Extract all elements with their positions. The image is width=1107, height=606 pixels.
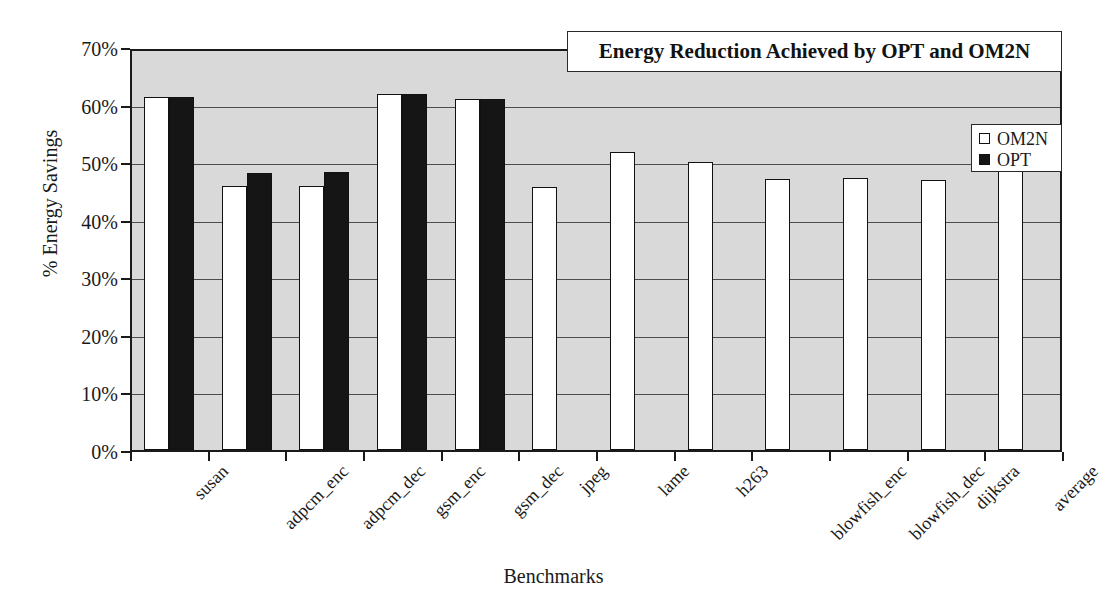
bar-opt-adpcm_enc	[247, 173, 272, 450]
y-axis-tick	[121, 48, 130, 50]
bar-om2n-susan	[144, 97, 169, 450]
bar-opt-gsm_enc	[402, 94, 427, 450]
bar-group	[144, 51, 194, 450]
bar-om2n-adpcm_dec	[299, 186, 324, 450]
x-axis-tick	[596, 452, 598, 461]
x-axis-category-label: lame	[654, 461, 694, 501]
y-axis-tick-label: 10%	[58, 384, 118, 404]
x-axis-category-label: blowfish_enc	[828, 461, 911, 544]
x-axis-title: Benchmarks	[0, 565, 1107, 588]
x-axis-tick	[674, 452, 676, 461]
legend-label: OM2N	[997, 130, 1048, 148]
x-axis-category-label-wrap: gsm_enc	[430, 461, 490, 521]
x-axis-tick	[285, 452, 287, 461]
bar-group	[222, 51, 272, 450]
legend-item: OPT	[979, 149, 1061, 170]
x-axis-category-label-wrap: adpcm_enc	[280, 461, 353, 534]
x-axis-category-label-wrap: susan	[190, 461, 233, 504]
bar-om2n-gsm_enc	[377, 94, 402, 450]
y-axis-tick	[121, 278, 130, 280]
x-axis-tick	[441, 452, 443, 461]
x-axis-category-label: h263	[732, 461, 772, 501]
bars-layer	[132, 51, 1060, 450]
x-axis-category-label-wrap: gsm_dec	[508, 461, 568, 521]
y-axis-tick-label: 40%	[58, 212, 118, 232]
bar-group	[299, 51, 349, 450]
bar-om2n-lame	[610, 152, 635, 450]
x-axis-tick	[1062, 452, 1064, 461]
chart-title: Energy Reduction Achieved by OPT and OM2…	[599, 39, 1030, 64]
bar-group	[688, 51, 738, 450]
x-axis-category-label: jpeg	[576, 461, 613, 498]
bar-om2n-jpeg	[532, 187, 557, 450]
y-axis-tick	[121, 336, 130, 338]
y-axis-tick	[121, 221, 130, 223]
bar-om2n-blowfish_dec	[843, 178, 868, 450]
bar-om2n-dijkstra	[921, 180, 946, 450]
x-axis-category-label-wrap: average	[1049, 461, 1103, 515]
bar-group	[843, 51, 893, 450]
x-axis-category-label: adpcm_enc	[280, 461, 353, 534]
bar-group	[377, 51, 427, 450]
x-axis-tick	[208, 452, 210, 461]
y-axis-tick	[121, 106, 130, 108]
x-axis-category-label: gsm_dec	[508, 461, 568, 521]
y-axis-tick	[121, 163, 130, 165]
x-axis-category-label: gsm_enc	[430, 461, 490, 521]
bar-group	[610, 51, 660, 450]
plot-area	[130, 49, 1062, 452]
bar-om2n-gsm_dec	[455, 99, 480, 450]
bar-om2n-adpcm_enc	[222, 186, 247, 450]
legend: OM2NOPT	[971, 124, 1062, 172]
bar-group	[765, 51, 815, 450]
x-axis-tick	[984, 452, 986, 461]
chart-figure: 0%10%20%30%40%50%60%70% susanadpcm_encad…	[0, 0, 1107, 606]
bar-group	[998, 51, 1048, 450]
legend-swatch-black-square	[979, 154, 990, 165]
x-axis-category-label-wrap: blowfish_enc	[828, 461, 911, 544]
y-axis-tick-label: 50%	[58, 154, 118, 174]
x-axis-tick	[518, 452, 520, 461]
x-axis-category-label: adpcm_dec	[357, 461, 430, 534]
bar-opt-gsm_dec	[480, 99, 505, 450]
x-axis-tick	[130, 452, 132, 461]
x-axis-tick	[363, 452, 365, 461]
bar-om2n-average	[998, 152, 1023, 450]
legend-swatch-white-square	[979, 133, 990, 144]
x-axis-category-label-wrap: adpcm_dec	[357, 461, 430, 534]
legend-label: OPT	[997, 151, 1031, 169]
bar-opt-adpcm_dec	[324, 172, 349, 450]
y-axis-tick-label: 60%	[58, 97, 118, 117]
y-axis-tick	[121, 393, 130, 395]
x-axis-category-label-wrap: h263	[732, 461, 772, 501]
y-axis-tick	[121, 451, 130, 453]
bar-om2n-h263	[688, 162, 713, 450]
x-axis-category-label-wrap: lame	[654, 461, 694, 501]
chart-title-box: Energy Reduction Achieved by OPT and OM2…	[567, 31, 1062, 72]
x-axis-category-label-wrap: jpeg	[576, 461, 613, 498]
bar-om2n-blowfish_enc	[765, 179, 790, 450]
x-axis-tick	[751, 452, 753, 461]
bar-group	[455, 51, 505, 450]
legend-item: OM2N	[979, 128, 1061, 149]
y-axis-tick-label: 70%	[58, 39, 118, 59]
y-axis-tick-label: 0%	[58, 442, 118, 462]
x-axis-category-label: average	[1049, 461, 1103, 515]
bar-group	[921, 51, 971, 450]
y-axis-tick-label: 20%	[58, 327, 118, 347]
bar-group	[532, 51, 582, 450]
x-axis-tick	[829, 452, 831, 461]
y-axis-tick-label: 30%	[58, 269, 118, 289]
y-axis-title: % Energy Savings	[39, 94, 62, 314]
bar-opt-susan	[169, 97, 194, 450]
x-axis-tick	[907, 452, 909, 461]
x-axis-category-label: susan	[190, 461, 233, 504]
